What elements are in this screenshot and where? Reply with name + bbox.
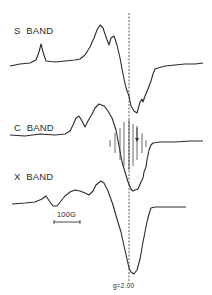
s-band-spectrum (10, 25, 203, 113)
scale-bar-label: 100G (57, 210, 76, 219)
scale-bar (54, 220, 80, 224)
x-band-label: X BAND (14, 171, 53, 182)
epr-spectra-figure: S BAND C BAND X BAND 100G g=2.00 (0, 0, 212, 295)
c-band-label: C BAND (14, 122, 54, 133)
s-band-label: S BAND (14, 25, 53, 36)
c-band-arrow-icon (135, 126, 139, 142)
spectrum-curves (10, 25, 203, 274)
spectra-plot (0, 0, 212, 295)
x-band-spectrum (12, 181, 186, 274)
g-value-label: g=2.00 (113, 282, 134, 289)
